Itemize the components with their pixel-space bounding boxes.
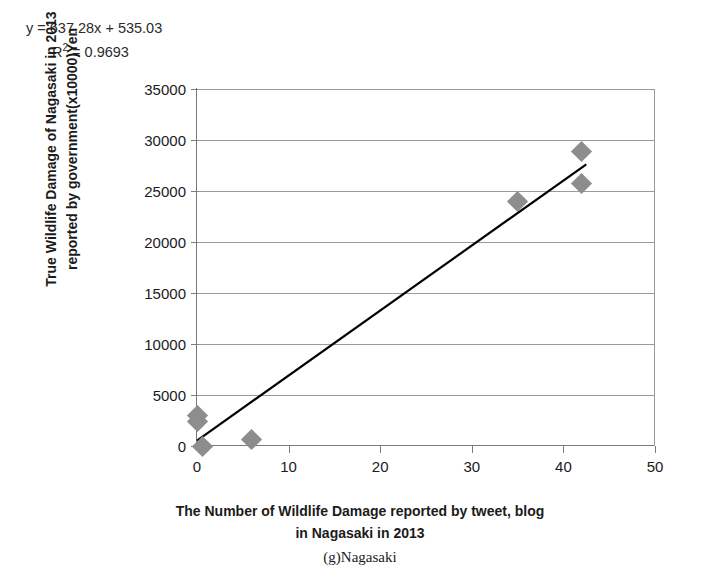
chart-figure: y = 637.28x + 535.03 R2 = 0.9693 True Wi…	[0, 0, 719, 583]
y-axis-title-line1: True Wildlife Damage of Nagasaki in 2013	[41, 0, 62, 329]
x-tick-mark	[472, 446, 473, 453]
x-tick-label: 0	[193, 458, 201, 475]
y-tick-label: 20000	[144, 234, 186, 251]
x-tick-label: 40	[555, 458, 572, 475]
y-tick-label: 30000	[144, 132, 186, 149]
x-tick-mark	[380, 446, 381, 453]
trendline	[197, 89, 655, 446]
y-tick-label: 10000	[144, 336, 186, 353]
x-tick-label: 10	[280, 458, 297, 475]
x-tick-mark	[563, 446, 564, 453]
y-tick-label: 25000	[144, 183, 186, 200]
y-axis-title-line2: reported by government(x10000)Yen	[62, 0, 83, 329]
y-tick-label: 0	[178, 438, 186, 455]
y-tick-label: 35000	[144, 81, 186, 98]
x-axis-title-line1: The Number of Wildlife Damage reported b…	[60, 500, 660, 522]
x-tick-label: 30	[463, 458, 480, 475]
y-axis-title: True Wildlife Damage of Nagasaki in 2013…	[41, 0, 83, 329]
x-tick-label: 20	[372, 458, 389, 475]
x-axis-title: The Number of Wildlife Damage reported b…	[60, 500, 660, 544]
plot-area: 05000100001500020000250003000035000 0102…	[197, 89, 655, 446]
figure-caption: (g)Nagasaki	[60, 549, 660, 566]
y-tick-label: 5000	[153, 387, 186, 404]
x-axis-title-line2: in Nagasaki in 2013	[60, 522, 660, 544]
x-tick-mark	[655, 446, 656, 453]
y-tick-label: 15000	[144, 285, 186, 302]
trendline-path	[197, 164, 586, 440]
x-tick-label: 50	[647, 458, 664, 475]
x-tick-mark	[289, 446, 290, 453]
